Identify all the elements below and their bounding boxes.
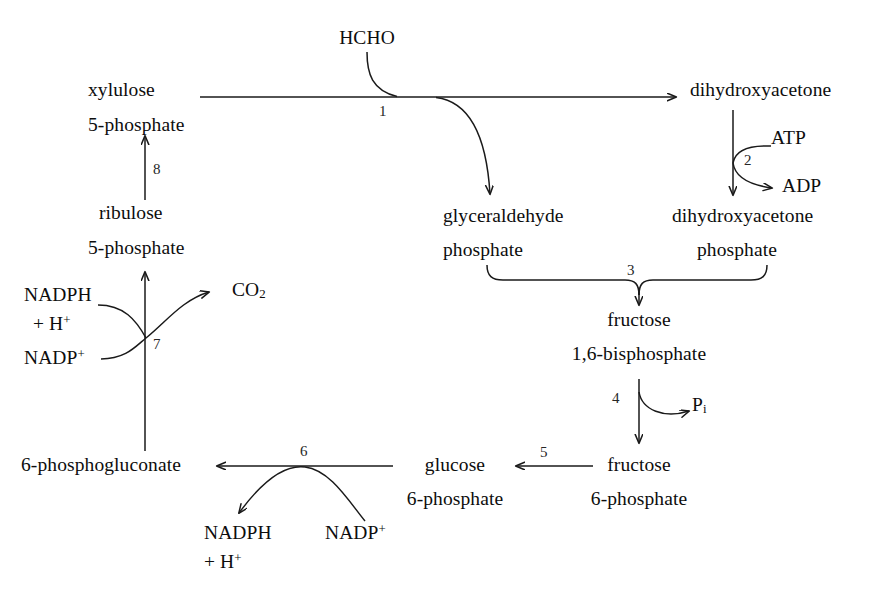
label-glyceraldehyde: glyceraldehyde: [443, 206, 564, 226]
step-number-1: 1: [379, 103, 387, 120]
arrow-nadph-input-step7: [98, 305, 146, 338]
label-nadp-step7: NADP+: [24, 348, 85, 368]
step-number-8: 8: [153, 161, 161, 178]
label-fructose-6-phosphate: fructose: [607, 455, 671, 475]
label-ribulose: ribulose: [99, 203, 163, 223]
arrow-nadp-input-step6: [305, 467, 365, 521]
pathway-diagram-canvas: HCHO xylulose 5-phosphate ribulose 5-pho…: [0, 0, 878, 591]
label-adp: ADP: [782, 176, 821, 196]
label-pi: Pi: [692, 395, 707, 415]
label-glyceraldehyde-phosphate-suffix: phosphate: [443, 240, 523, 260]
label-atp: ATP: [771, 128, 806, 148]
brace-glyceraldehyde-to-fructose: [487, 265, 639, 295]
label-nadp-step6: NADP+: [325, 523, 386, 543]
step-number-4: 4: [612, 390, 620, 407]
label-nadph-step6: NADPH: [204, 523, 272, 543]
step-number-2: 2: [744, 152, 752, 169]
step-number-3: 3: [627, 262, 635, 279]
label-6-phosphogluconate: 6-phosphogluconate: [21, 455, 181, 475]
arrow-hcho-input: [367, 52, 397, 97]
label-dihydroxyacetone-phosphate-suffix: phosphate: [697, 240, 777, 260]
label-dihydroxyacetone-phosphate: dihydroxyacetone: [672, 206, 813, 226]
label-fructose-6-phosphate-suffix: 6-phosphate: [591, 489, 687, 509]
label-co2: CO2: [232, 280, 266, 300]
label-glucose-6-phosphate: glucose: [425, 455, 485, 475]
arrow-atp-input: [733, 146, 771, 163]
step-number-5: 5: [540, 444, 548, 461]
arrow-to-glyceraldehyde-phosphate: [436, 97, 490, 194]
step-number-7: 7: [153, 336, 161, 353]
label-fructose-bisphosphate-suffix: 1,6-bisphosphate: [572, 344, 706, 364]
label-nadph-proton-step7: + H+: [33, 314, 71, 334]
arrow-nadph-output-step6: [239, 467, 305, 513]
step-number-6: 6: [300, 443, 308, 460]
label-nadph-proton-step6: + H+: [204, 552, 242, 572]
arrow-adp-output: [733, 163, 772, 188]
label-ribulose-5-phosphate: 5-phosphate: [88, 238, 184, 258]
label-hcho: HCHO: [339, 28, 395, 48]
brace-dihydroxyacetone-to-fructose: [639, 265, 767, 295]
label-glucose-6-phosphate-suffix: 6-phosphate: [407, 489, 503, 509]
label-nadph-step7: NADPH: [24, 285, 92, 305]
label-xylulose-5-phosphate: 5-phosphate: [88, 115, 184, 135]
label-dihydroxyacetone: dihydroxyacetone: [690, 80, 831, 100]
arrow-pi-output: [639, 392, 689, 414]
label-fructose-bisphosphate: fructose: [607, 310, 671, 330]
label-xylulose: xylulose: [88, 80, 155, 100]
